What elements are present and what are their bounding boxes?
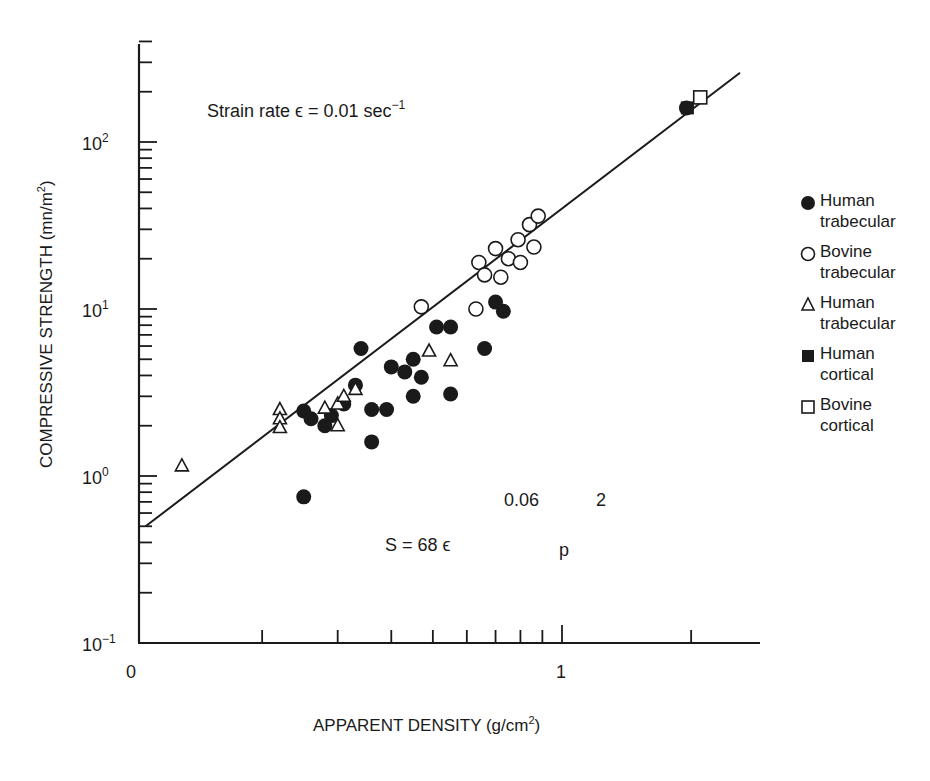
data-point-filled-circle — [496, 304, 511, 319]
formula-exponent-density: 2 — [596, 490, 606, 510]
regression-line — [146, 73, 740, 527]
data-point-open-triangle — [337, 389, 350, 401]
data-point-filled-circle — [443, 320, 458, 335]
formula-main: S = 68 ϵ — [385, 535, 451, 555]
data-point-filled-circle — [429, 320, 444, 335]
data-point-filled-circle — [397, 364, 412, 379]
open-square-icon — [798, 396, 820, 418]
open-circle-icon — [798, 243, 820, 265]
data-point-filled-circle — [384, 359, 399, 374]
x-tick-label-one: 1 — [556, 662, 566, 682]
data-point-filled-circle — [477, 341, 492, 356]
legend-item-human-cortical: Humancortical — [798, 343, 930, 385]
data-point-open-circle — [489, 242, 503, 256]
data-point-open-square — [694, 91, 707, 104]
data-point-filled-circle — [304, 411, 319, 426]
data-point-open-circle — [511, 233, 525, 247]
data-point-open-triangle — [318, 401, 331, 413]
data-point-filled-circle — [296, 489, 311, 504]
data-point-filled-circle — [364, 402, 379, 417]
data-point-open-circle — [494, 270, 508, 284]
legend-item-bovine-cortical: Bovinecortical — [798, 394, 930, 436]
data-point-open-circle — [414, 300, 428, 314]
formula-exponent-strain: 0.06 — [504, 490, 539, 510]
strain-rate-annotation: Strain rate ϵ = 0.01 sec−1 — [207, 98, 406, 121]
formula-density-symbol: p — [559, 540, 569, 560]
y-axis-title: COMPRESSIVE STRENGTH (mn/m2) — [35, 180, 56, 468]
data-point-filled-circle — [354, 341, 369, 356]
data-point-filled-circle — [364, 434, 379, 449]
legend: Humantrabecular Bovinetrabecular Humantr… — [798, 190, 930, 445]
x-axis-ticks — [262, 625, 691, 643]
legend-item-human-trabecular-triangle: Humantrabecular — [798, 292, 930, 334]
data-point-open-triangle — [444, 354, 457, 366]
svg-text:10−1: 10−1 — [82, 632, 116, 655]
data-point-open-circle — [513, 255, 527, 269]
data-point-filled-circle — [443, 386, 458, 401]
svg-text:100: 100 — [82, 465, 109, 488]
data-point-open-triangle — [423, 344, 436, 356]
data-point-filled-circle — [406, 352, 421, 367]
data-point-open-circle — [527, 240, 541, 254]
data-point-filled-square — [681, 101, 694, 114]
svg-text:101: 101 — [82, 298, 109, 321]
scatter-plot: 102 101 100 10−1 0 1 COMPRESSIVE STRENGT… — [0, 0, 930, 781]
data-point-filled-circle — [406, 389, 421, 404]
x-axis-title: APPARENT DENSITY (g/cm2) — [313, 714, 540, 735]
filled-square-icon — [798, 345, 820, 367]
y-tick-labels: 102 101 100 10−1 — [82, 131, 116, 655]
open-triangle-icon — [798, 294, 820, 316]
data-point-open-circle — [531, 209, 545, 223]
legend-item-bovine-trabecular: Bovinetrabecular — [798, 241, 930, 283]
svg-text:102: 102 — [82, 131, 109, 154]
data-point-filled-circle — [379, 402, 394, 417]
y-axis-ticks — [139, 41, 157, 643]
legend-item-human-trabecular-circle: Humantrabecular — [798, 190, 930, 232]
data-point-open-circle — [478, 268, 492, 282]
data-point-open-circle — [469, 302, 483, 316]
data-point-open-triangle — [175, 459, 188, 471]
filled-circle-icon — [798, 192, 820, 214]
data-point-filled-circle — [414, 370, 429, 385]
x-tick-label-zero: 0 — [126, 662, 136, 682]
